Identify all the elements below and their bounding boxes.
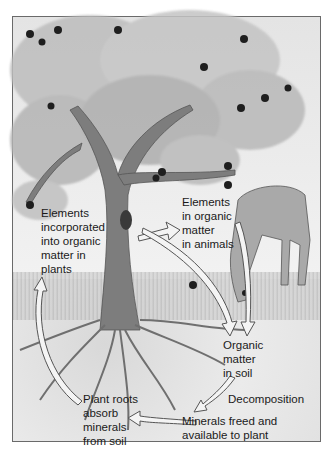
label-plants: Elements incorporated into organic matte…	[41, 206, 105, 276]
label-decomposition: Decomposition	[228, 392, 304, 406]
arrow-roots-to-plants	[34, 277, 82, 405]
label-roots: Plant roots absorb minerals from soil	[83, 392, 138, 448]
label-soil-organic-matter: Organic matter in soil	[223, 338, 263, 380]
label-animals: Elements in organic matter in animals	[182, 195, 234, 251]
trunk-knot	[120, 210, 132, 230]
label-minerals: Minerals freed and available to plant	[182, 414, 277, 442]
